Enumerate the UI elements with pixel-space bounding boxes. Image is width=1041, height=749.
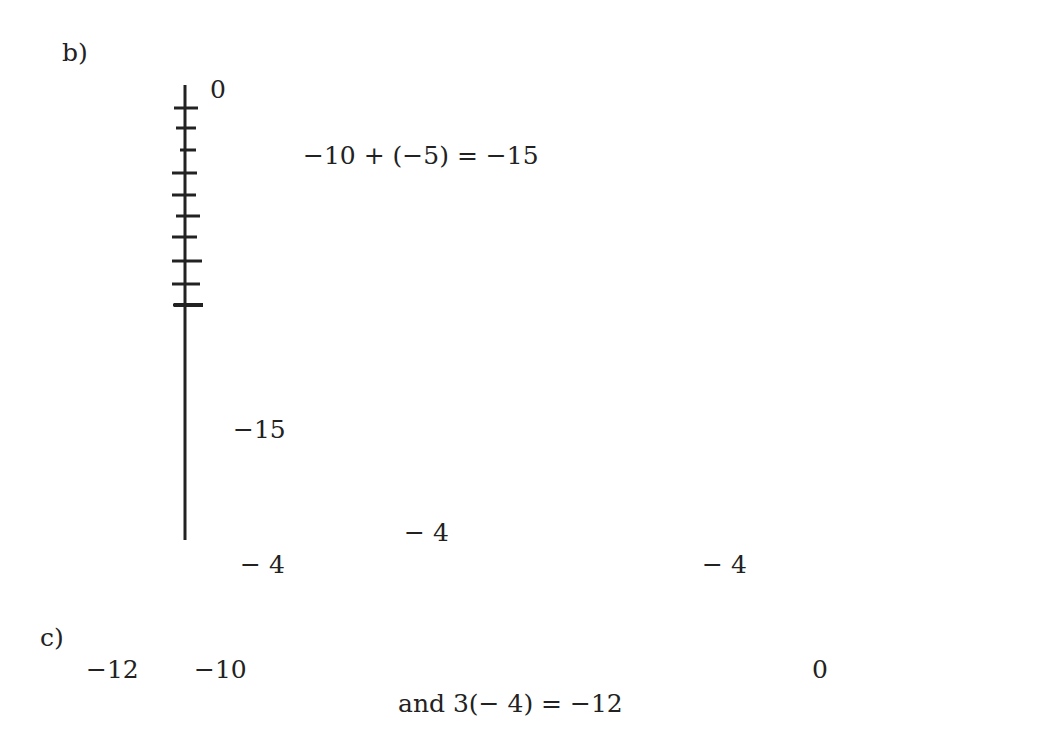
tick-label-minus-10: −10 [194, 657, 247, 682]
tick-label-zero: 0 [812, 657, 828, 682]
jump-label-1: − 4 [240, 552, 285, 577]
part-c-equation: and 3(− 4) = −12 [398, 691, 623, 716]
part-c-label: c) [40, 625, 64, 650]
vertical-number-line [0, 0, 1041, 749]
jump-label-2: − 4 [404, 520, 449, 545]
vertical-top-label: 0 [210, 77, 226, 102]
part-b-equation: −10 + (−5) = −15 [303, 143, 539, 168]
tick-label-minus-12: −12 [86, 657, 139, 682]
vertical-end-label: −15 [233, 417, 286, 442]
jump-label-3: − 4 [702, 552, 747, 577]
